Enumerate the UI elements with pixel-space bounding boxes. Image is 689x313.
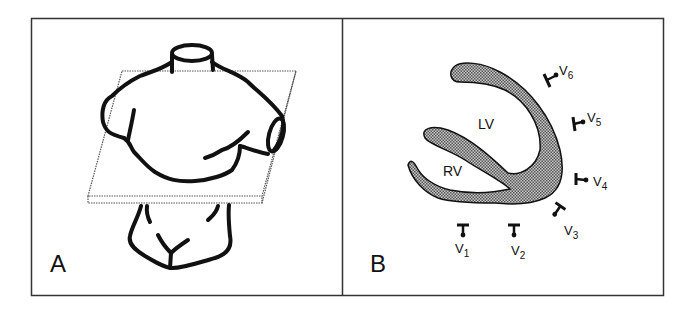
figure-canvas: A LV RV V1 V2 V3 V4 [0,0,689,313]
panel-a-label: A [50,250,66,277]
electrode-v3 [548,203,565,220]
electrode-v1: V1 [455,225,470,259]
svg-text:V2: V2 [511,243,526,261]
figure-frame [32,18,664,296]
electrode-v5: V5 [573,110,602,131]
svg-text:V5: V5 [587,110,602,128]
electrode-v3-label: V3 [564,223,579,241]
svg-text:V4: V4 [593,174,608,192]
electrode-v2: V2 [508,225,526,261]
svg-text:V6: V6 [559,63,574,81]
torso-icon [102,45,287,181]
lv-label: LV [478,116,495,132]
electrode-v6: V6 [544,63,574,87]
svg-text:V1: V1 [455,241,470,259]
lower-torso [130,205,231,268]
panel-b: LV RV V1 V2 V3 V4 [370,63,608,277]
rv-label: RV [443,163,463,179]
electrode-v4: V4 [576,173,608,192]
panel-a: A [50,45,296,277]
panel-b-label: B [370,250,386,277]
left-ventricle-wall [408,63,562,204]
